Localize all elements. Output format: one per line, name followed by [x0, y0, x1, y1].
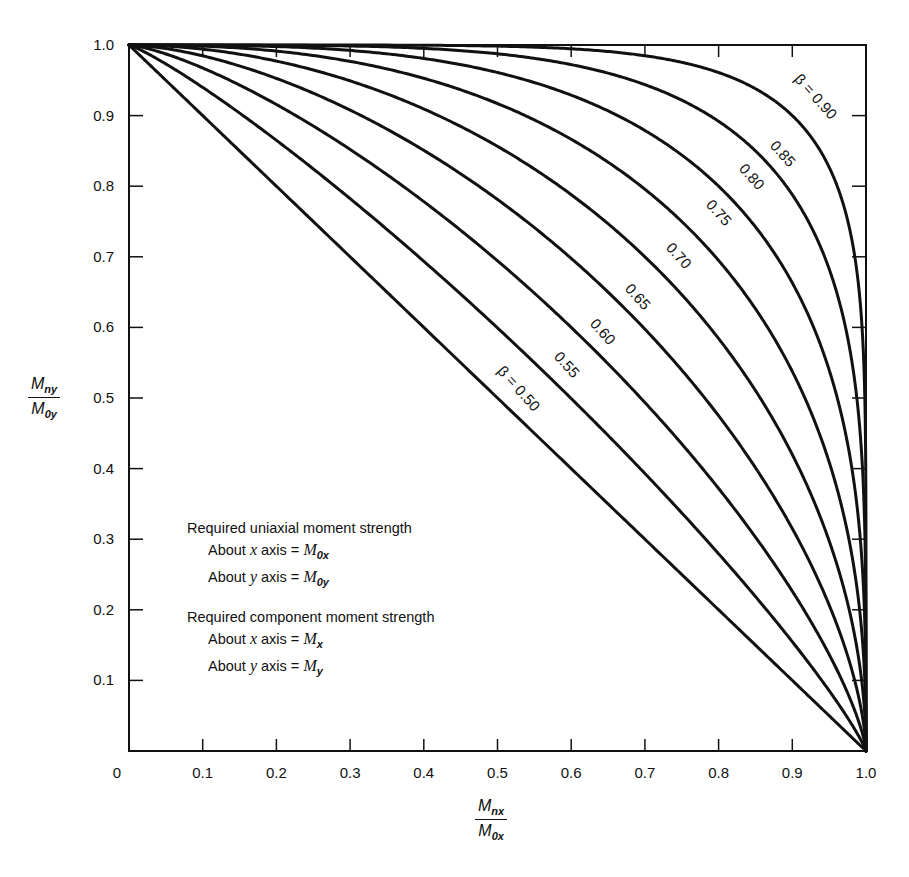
legend-row-about-x-uniaxial: About x axis = M0x: [187, 539, 434, 566]
x-axis-label: Mnx M0x: [475, 797, 507, 842]
x-axis-numerator: Mnx: [475, 797, 507, 820]
y-axis-label: Mny M0y: [28, 375, 60, 420]
y-axis-numerator: Mny: [28, 375, 60, 398]
x-tick-label: 0.1: [192, 764, 213, 781]
y-tick-label: 0.6: [93, 318, 114, 335]
x-tick-label: 0.3: [340, 764, 361, 781]
legend-row-about-y-uniaxial: About y axis = M0y: [187, 566, 434, 593]
curve-label: 0.60: [587, 315, 619, 348]
x-tick-label: 0.7: [634, 764, 655, 781]
y-tick-label: 0.3: [93, 530, 114, 547]
x-tick-label: 0.6: [561, 764, 582, 781]
curve-label: β = 0.50: [494, 362, 543, 414]
y-tick-label: 0.2: [93, 601, 114, 618]
y-tick-label: 0.5: [93, 389, 114, 406]
x-axis-denominator: M0x: [475, 820, 507, 842]
legend-heading-component: Required component moment strength: [187, 607, 434, 628]
y-tick-label: 0.1: [93, 671, 114, 688]
x-tick-label: 0.8: [708, 764, 729, 781]
x-tick-label: 0.9: [782, 764, 803, 781]
y-tick-label: 0.4: [93, 460, 114, 477]
curve-label: 0.75: [703, 196, 735, 229]
curve-label: 0.70: [663, 239, 695, 272]
curve-label: β = 0.90: [791, 70, 840, 122]
x-tick-label: 1.0: [856, 764, 877, 781]
y-axis-denominator: M0y: [28, 398, 60, 420]
curve-label: 0.55: [551, 348, 583, 381]
y-tick-label: 0.9: [93, 107, 114, 124]
curve-label: 0.80: [736, 160, 768, 193]
x-tick-label: 0.2: [266, 764, 287, 781]
x-tick-label: 0.4: [413, 764, 434, 781]
y-tick-label: 0.7: [93, 248, 114, 265]
x-tick-label: 0: [113, 764, 121, 781]
y-tick-label: 1.0: [93, 36, 114, 53]
legend-heading-uniaxial: Required uniaxial moment strength: [187, 518, 434, 539]
curve-label: 0.65: [622, 280, 654, 313]
curve-label: 0.85: [767, 137, 799, 170]
x-tick-label: 0.5: [487, 764, 508, 781]
interaction-diagram: 00.10.20.30.40.50.60.70.80.91.00.10.20.3…: [0, 0, 909, 877]
legend-row-about-x-component: About x axis = Mx: [187, 628, 434, 655]
legend-block: Required uniaxial moment strength About …: [187, 518, 434, 682]
legend-row-about-y-component: About y axis = My: [187, 655, 434, 682]
y-tick-label: 0.8: [93, 177, 114, 194]
